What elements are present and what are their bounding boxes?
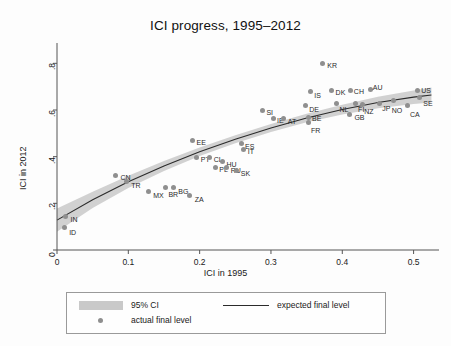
data-point-label: SI <box>266 109 273 116</box>
y-tick-label: .4 <box>47 157 57 164</box>
chart-legend: 95% CI expected final level actual final… <box>66 292 386 334</box>
legend-point-swatch <box>98 318 103 323</box>
data-point-label: NZ <box>364 108 373 115</box>
data-point <box>417 95 422 100</box>
data-point-label: US <box>421 87 431 94</box>
data-point-label: FR <box>311 127 320 134</box>
chart-root: ICI progress, 1995–2012 ICI in 2012 ICI … <box>0 0 451 346</box>
x-tick-label: 0.2 <box>191 257 209 267</box>
data-point <box>353 101 358 106</box>
ci-band <box>57 88 431 232</box>
data-point <box>62 225 67 230</box>
data-point <box>171 185 176 190</box>
data-point-label: CH <box>354 88 364 95</box>
data-point <box>303 103 308 108</box>
data-point-label: EE <box>197 139 206 146</box>
data-point-label: AU <box>373 84 383 91</box>
data-point-label: DK <box>336 89 346 96</box>
data-point <box>271 116 276 121</box>
x-tick-label: 0.4 <box>333 257 351 267</box>
data-point-label: AT <box>288 118 296 125</box>
legend-line-label: expected final level <box>277 300 349 310</box>
data-point-label: ZA <box>195 196 204 203</box>
data-point <box>213 165 218 170</box>
legend-ci-swatch <box>79 301 123 310</box>
data-point <box>306 115 311 120</box>
data-point <box>194 155 199 160</box>
y-tick-label: .8 <box>47 63 57 70</box>
y-axis-title: ICI in 2012 <box>18 146 28 190</box>
data-point <box>377 101 382 106</box>
x-tick-label: 0.5 <box>405 257 423 267</box>
data-point-label: IN <box>71 216 78 223</box>
data-point <box>146 189 151 194</box>
data-point <box>113 173 118 178</box>
data-point-label: NO <box>392 107 403 114</box>
data-point-label: MX <box>153 192 164 199</box>
x-tick-label: 0.3 <box>262 257 280 267</box>
data-point-label: SK <box>241 170 250 177</box>
data-point <box>306 120 311 125</box>
legend-line-swatch <box>223 305 269 306</box>
data-point-label: IT <box>248 148 254 155</box>
data-point-label: DE <box>309 106 319 113</box>
data-point-label: TR <box>131 182 140 189</box>
x-tick-label: 0.1 <box>119 257 137 267</box>
expected-level-line <box>57 95 431 220</box>
data-point-label: KR <box>327 62 337 69</box>
data-point <box>63 214 68 219</box>
data-point-label: IS <box>314 92 321 99</box>
legend-ci-label: 95% CI <box>131 300 159 310</box>
data-point <box>239 141 244 146</box>
data-point-label: BR <box>168 191 178 198</box>
data-point <box>190 138 195 143</box>
data-point <box>320 61 325 66</box>
data-point <box>124 179 129 184</box>
data-point-label: ID <box>69 229 76 236</box>
data-point <box>360 102 365 107</box>
data-point-label: SE <box>423 100 432 107</box>
data-point <box>334 101 339 106</box>
x-tick-label: 0 <box>48 257 66 267</box>
y-tick-label: .2 <box>47 203 57 210</box>
legend-point-label: actual final level <box>131 315 191 325</box>
data-point-label: GB <box>354 114 364 121</box>
data-point-label: CA <box>410 111 420 118</box>
data-point <box>207 155 212 160</box>
x-axis-title: ICI in 1995 <box>0 268 451 278</box>
data-point <box>260 108 265 113</box>
data-point <box>163 185 168 190</box>
data-point-label: JP <box>382 105 390 112</box>
y-tick-label: .6 <box>47 110 57 117</box>
data-point-label: BE <box>312 115 321 122</box>
